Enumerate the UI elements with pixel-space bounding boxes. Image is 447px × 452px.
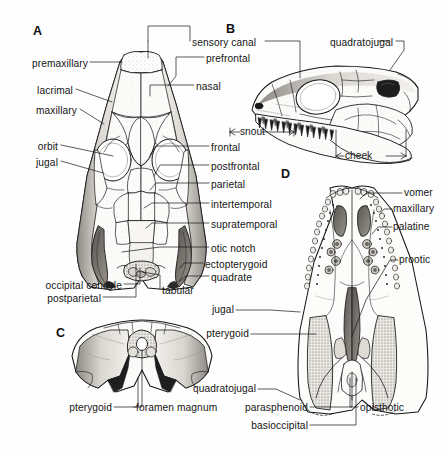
label-ectopterygoid: ectopterygoid <box>205 259 267 270</box>
label-cheek: cheek <box>345 150 372 161</box>
label-basioccipital: basioccipital <box>251 420 308 431</box>
label-frontal: frontal <box>211 142 240 153</box>
label-supratemporal: supratemporal <box>211 219 277 230</box>
panel-letter-C: C <box>56 326 65 340</box>
label-parietal: parietal <box>211 179 245 190</box>
label-nasal: nasal <box>196 81 221 92</box>
label-otic-notch: otic notch <box>211 243 256 254</box>
label-orbit: orbit <box>38 141 58 152</box>
panel-letter-A: A <box>33 24 42 38</box>
label-occipital-condyle: occipital condyle <box>46 280 122 291</box>
skull-anatomy-figure: A B C D premaxillary lacrimal maxillary … <box>0 0 447 452</box>
label-postparietal: postparietal <box>47 293 101 304</box>
label-sensory-canal: sensory canal <box>192 37 256 48</box>
label-palatine: palatine <box>393 221 430 232</box>
skull-lateral-view <box>252 66 418 164</box>
label-premaxillary: premaxillary <box>32 58 88 69</box>
label-jugal-palatal: jugal <box>212 304 234 315</box>
label-prootic: prootic <box>399 254 430 265</box>
label-foramen-magnum: foramen magnum <box>136 402 217 413</box>
panel-letter-D: D <box>281 167 290 181</box>
label-intertemporal: intertemporal <box>211 199 272 210</box>
panel-letter-B: B <box>226 22 235 36</box>
label-snout: snout <box>240 126 265 137</box>
label-quadratojugal-lateral: quadratojugal <box>330 37 393 48</box>
label-quadrate: quadrate <box>211 272 252 283</box>
label-quadratojugal-palatal: quadratojugal <box>193 383 256 394</box>
label-opisthotic: opisthotic <box>360 402 404 413</box>
label-lacrimal: lacrimal <box>37 85 73 96</box>
label-maxillary-dorsal: maxillary <box>36 105 77 116</box>
label-parasphenoid: parasphenoid <box>245 402 308 413</box>
label-pterygoid-palatal: pterygoid <box>206 328 249 339</box>
label-tabular: tabular <box>162 285 194 296</box>
label-vomer: vomer <box>404 187 433 198</box>
label-pterygoid-occipital: pterygoid <box>69 402 112 413</box>
label-jugal-dorsal: jugal <box>36 157 58 168</box>
label-postfrontal: postfrontal <box>211 161 260 172</box>
label-maxillary-palatal: maxillary <box>393 203 434 214</box>
label-prefrontal: prefrontal <box>206 53 250 64</box>
